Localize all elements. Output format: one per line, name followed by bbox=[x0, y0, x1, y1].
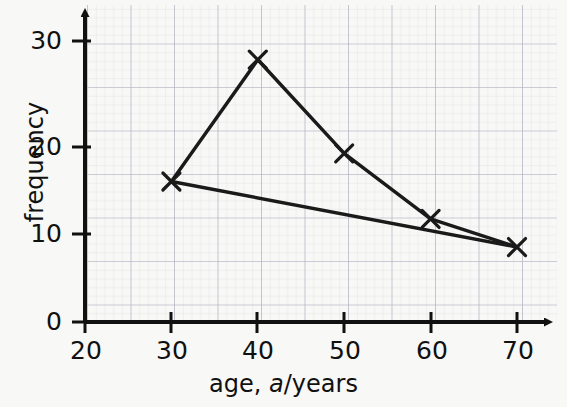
xtick-label-20: 20 bbox=[68, 338, 104, 363]
x-axis-title: age, a/years bbox=[0, 372, 567, 396]
ytick-label-0: 0 bbox=[18, 309, 62, 334]
xtick-label-40: 40 bbox=[240, 338, 276, 363]
ytick-label-30: 30 bbox=[18, 28, 62, 53]
graph-paper-grid bbox=[85, 5, 557, 322]
x-axis-title-variable: a bbox=[269, 370, 284, 398]
xtick-label-70: 70 bbox=[500, 338, 536, 363]
frequency-polygon-chart: 30 20 10 0 20 30 40 50 60 70 age, a/year… bbox=[0, 0, 567, 407]
y-axis-title: frequency bbox=[23, 67, 47, 257]
xtick-label-60: 60 bbox=[414, 338, 450, 363]
x-axis-title-prefix: age, bbox=[209, 370, 269, 398]
xtick-label-30: 30 bbox=[154, 338, 190, 363]
xtick-label-50: 50 bbox=[327, 338, 363, 363]
x-axis-title-suffix: /years bbox=[284, 370, 358, 398]
